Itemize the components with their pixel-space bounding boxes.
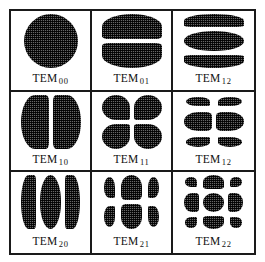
mode-lobe: [184, 55, 244, 68]
mode-lobe: [184, 31, 244, 50]
pattern-area: [173, 11, 254, 69]
mode-label-base: TEM: [195, 153, 220, 165]
mode-label-subscript: 10: [59, 157, 69, 167]
mode-label: TEM10: [11, 150, 90, 171]
mode-label-base: TEM: [195, 235, 220, 247]
mode-pattern: [184, 175, 244, 229]
mode-lobe: [134, 124, 162, 149]
mode-lobe: [21, 95, 49, 149]
mode-pattern: [102, 14, 162, 68]
mode-pattern: [21, 14, 81, 68]
mode-pattern: [21, 95, 81, 149]
mode-pattern: [102, 175, 162, 229]
mode-lobe: [24, 14, 78, 68]
mode-lobe: [186, 97, 210, 106]
pattern-area: [92, 172, 171, 230]
mode-lobe: [218, 137, 242, 146]
mode-lobe: [185, 177, 197, 187]
mode-label-subscript: 21: [140, 239, 150, 249]
mode-label: TEM20: [11, 230, 90, 253]
mode-label-base: TEM: [113, 72, 138, 84]
mode-lobe: [185, 217, 197, 227]
mode-label-base: TEM: [32, 153, 57, 165]
mode-lobe: [148, 177, 159, 198]
mode-label: TEM21: [92, 230, 171, 253]
pattern-area: [92, 11, 171, 69]
mode-cell-tem20: TEM20: [11, 172, 92, 253]
mode-label: TEM12: [173, 150, 254, 171]
pattern-area: [173, 172, 254, 230]
mode-label-base: TEM: [32, 72, 57, 84]
mode-lobe: [184, 193, 199, 212]
mode-lobe: [104, 177, 115, 198]
mode-label-subscript: 11: [140, 157, 149, 167]
mode-lobe: [134, 95, 162, 120]
pattern-area: [11, 11, 90, 69]
mode-lobe: [184, 14, 244, 27]
pattern-area: [11, 92, 90, 150]
mode-cell-tem11: TEM11: [92, 92, 173, 173]
mode-grid: TEM00TEM01TEM12TEM10TEM11TEM12TEM20TEM21…: [11, 11, 254, 253]
mode-label: TEM01: [92, 69, 171, 90]
pattern-area: [92, 92, 171, 150]
mode-lobe: [65, 175, 80, 229]
mode-label-subscript: 12: [222, 157, 232, 167]
mode-lobe: [102, 124, 130, 149]
mode-lobe: [203, 175, 225, 188]
pattern-area: [11, 172, 90, 230]
mode-cell-tem10: TEM10: [11, 92, 92, 173]
mode-lobe: [186, 137, 210, 146]
mode-cell-tem00: TEM00: [11, 11, 92, 92]
mode-lobe: [230, 177, 242, 187]
mode-lobe: [21, 175, 36, 229]
mode-label-subscript: 00: [59, 76, 69, 86]
mode-lobe: [102, 43, 162, 68]
mode-label-subscript: 20: [59, 239, 69, 249]
mode-lobe: [184, 112, 212, 131]
mode-label: TEM12: [173, 69, 254, 90]
mode-pattern: [102, 95, 162, 149]
mode-label-subscript: 22: [222, 239, 232, 249]
mode-lobe: [40, 175, 62, 229]
mode-label-base: TEM: [114, 153, 139, 165]
tem-mode-figure: TEM00TEM01TEM12TEM10TEM11TEM12TEM20TEM21…: [9, 9, 256, 255]
mode-lobe: [148, 206, 159, 227]
mode-label-base: TEM: [32, 235, 57, 247]
mode-lobe: [53, 95, 81, 149]
mode-label: TEM22: [173, 230, 254, 253]
mode-cell-tem01: TEM01: [92, 11, 173, 92]
mode-lobe: [228, 193, 243, 212]
mode-lobe: [104, 206, 115, 227]
mode-cell-tem21: TEM21: [92, 172, 173, 253]
mode-lobe: [218, 97, 242, 106]
mode-lobe: [203, 216, 225, 229]
mode-label-subscript: 01: [140, 76, 150, 86]
mode-label-subscript: 12: [222, 76, 232, 86]
mode-cell-tem22: TEM22: [173, 172, 254, 253]
mode-lobe: [121, 175, 143, 200]
mode-pattern: [21, 175, 81, 229]
mode-pattern: [184, 95, 244, 149]
mode-lobe: [102, 95, 130, 120]
mode-cell-tem12: TEM12: [173, 92, 254, 173]
mode-label: TEM00: [11, 69, 90, 90]
mode-cell-tem12: TEM12: [173, 11, 254, 92]
mode-pattern: [184, 14, 244, 68]
mode-lobe: [121, 204, 143, 229]
mode-lobe: [203, 193, 225, 212]
mode-lobe: [102, 14, 162, 39]
pattern-area: [173, 92, 254, 150]
mode-label-base: TEM: [195, 72, 220, 84]
mode-lobe: [216, 112, 244, 131]
mode-lobe: [230, 217, 242, 227]
mode-label: TEM11: [92, 150, 171, 171]
mode-label-base: TEM: [113, 235, 138, 247]
